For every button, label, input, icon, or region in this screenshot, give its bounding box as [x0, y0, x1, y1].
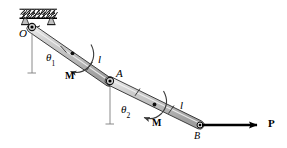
- label-angle-theta1: θ1: [46, 52, 55, 66]
- pin-joint-center-A: [108, 79, 111, 82]
- fixed-support: [20, 9, 58, 27]
- label-length-l-2: l: [180, 100, 183, 111]
- label-force-P: P: [268, 118, 275, 129]
- label-point-B: B: [194, 131, 200, 141]
- center-of-mass-dot-icon-OA: [71, 51, 75, 55]
- pin-joint-center-O: [30, 25, 33, 28]
- diagram-canvas: [0, 0, 287, 148]
- label-moment-M-1: M: [65, 71, 74, 81]
- mechanics-diagram: O θ1 M l A θ2 M l B P: [0, 0, 287, 148]
- label-angle-theta1-subscript: 1: [51, 59, 55, 68]
- center-of-mass-dot-icon-AB: [153, 103, 157, 107]
- support-feet: [22, 18, 56, 24]
- label-point-A: A: [116, 68, 123, 79]
- label-angle-theta2-subscript: 2: [126, 111, 130, 120]
- label-length-l-1: l: [98, 54, 101, 65]
- label-moment-M-2: M: [152, 118, 161, 128]
- label-angle-theta2: θ2: [121, 104, 130, 118]
- label-point-O: O: [19, 28, 27, 39]
- end-point-center-B: [199, 124, 202, 127]
